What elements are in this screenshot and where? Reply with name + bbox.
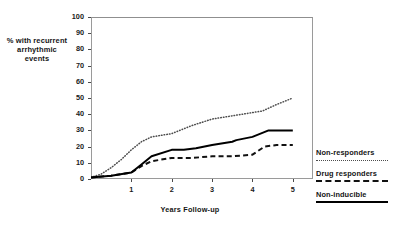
x-axis-tick-label: 1: [124, 186, 138, 194]
legend-line-dotted: [316, 160, 388, 161]
x-axis-tick-mark: [212, 179, 213, 182]
y-axis-tick-label: 30: [64, 126, 84, 134]
y-axis-tick-label: 10: [64, 159, 84, 167]
x-axis-tick-label: 2: [165, 186, 179, 194]
y-axis-tick-label: 20: [64, 143, 84, 151]
x-axis-tick-mark: [252, 179, 253, 182]
legend-line-sample-solid: [316, 201, 388, 205]
y-axis-tick-label: 40: [64, 110, 84, 118]
y-axis-tick-label: 80: [64, 45, 84, 53]
x-axis-tick-mark: [293, 179, 294, 182]
x-axis-tick-label: 5: [286, 186, 300, 194]
chart-legend: Non-respondersDrug respondersNon-inducib…: [316, 148, 392, 211]
x-axis-tick-mark: [172, 179, 173, 182]
y-axis-tick-label: 90: [64, 29, 84, 37]
legend-label: Non-responders: [316, 148, 392, 157]
plot-lines: [91, 17, 313, 179]
y-axis-tick-label: 100: [64, 13, 84, 21]
legend-label: Drug responders: [316, 169, 392, 178]
x-axis-tick-label: 3: [205, 186, 219, 194]
y-axis-tick-label: 0: [64, 175, 84, 183]
legend-label: Non-inducible: [316, 190, 392, 199]
y-axis-tick-label: 50: [64, 94, 84, 102]
legend-line-sample-dotted: [316, 159, 388, 163]
legend-entry: Drug responders: [316, 169, 392, 184]
y-axis-tick-label: 60: [64, 78, 84, 86]
series-line-non-inducible: [91, 130, 293, 177]
series-line-drug-responders: [91, 145, 293, 177]
chart-figure: % with recurrent arrhythmic events 01020…: [0, 0, 394, 231]
x-axis-title: Years Follow-up: [120, 205, 260, 214]
y-axis-tick-label: 70: [64, 62, 84, 70]
legend-line-solid: [316, 201, 388, 203]
y-axis-tick-mark: [88, 179, 91, 180]
legend-entry: Non-inducible: [316, 190, 392, 205]
legend-line-dashed: [316, 180, 388, 182]
x-axis-tick-label: 4: [245, 186, 259, 194]
legend-line-sample-dashed: [316, 180, 388, 184]
legend-entry: Non-responders: [316, 148, 392, 163]
y-axis-title: % with recurrent arrhythmic events: [6, 36, 68, 64]
x-axis-tick-mark: [131, 179, 132, 182]
series-line-non-responders: [91, 98, 293, 177]
